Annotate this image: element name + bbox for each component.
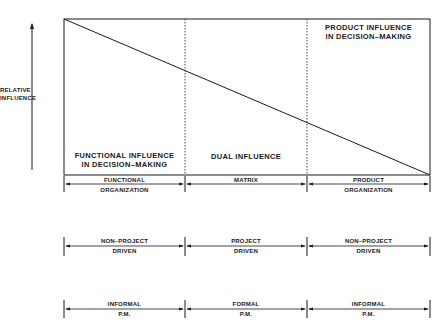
segment-formal-pm: FORMAL P.M.: [185, 301, 307, 318]
y-axis-label-line2: INFLUENCE: [0, 95, 30, 103]
region-label-functional: FUNCTIONAL INFLUENCE IN DECISION–MAKING: [64, 151, 185, 170]
segment-label-line: ORGANIZATION: [64, 187, 185, 195]
region-label-dual: DUAL INFLUENCE: [185, 152, 307, 161]
segment-label-line: ORGANIZATION: [307, 187, 430, 195]
segment-informal-pm-left: INFORMAL P.M.: [64, 301, 185, 318]
segment-non-project-driven-left: NON–PROJECT DRIVEN: [64, 238, 185, 255]
segment-informal-pm-right: INFORMAL P.M.: [307, 301, 430, 318]
segment-label-line: PROJECT: [185, 238, 307, 246]
segment-label-line: FORMAL: [185, 301, 307, 309]
region-label-line: IN DECISION–MAKING: [307, 32, 430, 41]
region-label-product: PRODUCT INFLUENCE IN DECISION–MAKING: [307, 23, 430, 42]
segment-non-project-driven-right: NON–PROJECT DRIVEN: [307, 238, 430, 255]
y-axis-label: RELATIVE INFLUENCE: [0, 87, 30, 102]
segment-label-line: DRIVEN: [307, 248, 430, 256]
segment-label-line: MATRIX: [185, 177, 307, 185]
segment-label-line: INFORMAL: [307, 301, 430, 309]
region-label-line: PRODUCT INFLUENCE: [307, 23, 430, 32]
segment-product-organization: PRODUCT ORGANIZATION: [307, 177, 430, 194]
segment-project-driven: PROJECT DRIVEN: [185, 238, 307, 255]
segment-label-line: P.M.: [185, 311, 307, 319]
region-label-line: FUNCTIONAL INFLUENCE: [64, 151, 185, 160]
segment-functional-organization: FUNCTIONAL ORGANIZATION: [64, 177, 185, 194]
segment-matrix: MATRIX: [185, 177, 307, 185]
segment-label-line: DRIVEN: [185, 248, 307, 256]
segment-label-line: PRODUCT: [307, 177, 430, 185]
y-axis-label-line1: RELATIVE: [0, 87, 30, 95]
segment-label-line: INFORMAL: [64, 301, 185, 309]
region-label-line: IN DECISION–MAKING: [64, 160, 185, 169]
segment-label-line: DRIVEN: [64, 248, 185, 256]
segment-label-line: FUNCTIONAL: [64, 177, 185, 185]
segment-label-line: NON–PROJECT: [307, 238, 430, 246]
segment-label-line: NON–PROJECT: [64, 238, 185, 246]
segment-label-line: P.M.: [307, 311, 430, 319]
region-label-line: DUAL INFLUENCE: [185, 152, 307, 161]
segment-label-line: P.M.: [64, 311, 185, 319]
